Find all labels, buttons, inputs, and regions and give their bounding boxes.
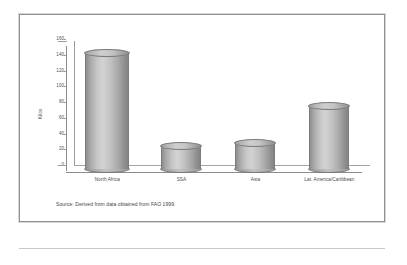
bars-layer: [66, 41, 366, 173]
bar-cylinder-top: [160, 142, 202, 150]
x-axis-tick-label: SSA: [177, 177, 187, 182]
x-axis-tick-labels: North AfricaSSAAsiaLat. America/Caribbea…: [66, 177, 366, 189]
bar-cylinder-body: [235, 143, 275, 168]
bar-cylinder-top: [84, 49, 130, 57]
bar-cylinder: [85, 53, 129, 169]
bar-cylinder-top: [308, 102, 350, 110]
x-axis-tick-label: Asia: [251, 177, 260, 182]
source-note: Source: Derived from data obtained from …: [56, 201, 176, 207]
figure-frame: Kilos 020406080100120140160 North Africa…: [19, 14, 385, 222]
figure-page: Kilos 020406080100120140160 North Africa…: [0, 0, 407, 265]
bar-cylinder: [309, 106, 349, 169]
y-axis-tick-labels: 020406080100120140160: [46, 41, 64, 171]
y-axis-tick-mark: [64, 39, 66, 40]
y-axis-tick-label: 140: [56, 52, 64, 57]
bar-cylinder: [235, 143, 275, 168]
y-axis-title: Kilos: [38, 109, 43, 119]
y-axis-tick-label: 100: [56, 84, 64, 89]
bottom-divider: [19, 248, 385, 249]
y-axis-tick-label: 120: [56, 68, 64, 73]
bar-cylinder: [161, 146, 201, 169]
x-axis-tick-label: Lat. America/Caribbean: [304, 177, 354, 182]
bar-cylinder-body: [309, 106, 349, 169]
x-axis-tick-label: North Africa: [95, 177, 120, 182]
bar-chart: Kilos 020406080100120140160 North Africa…: [36, 41, 370, 191]
bar-cylinder-body: [85, 53, 129, 169]
